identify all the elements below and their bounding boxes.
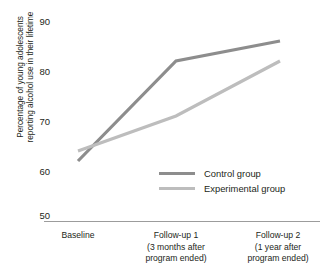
x-axis-category-labels: Baseline Follow-up 1 (3 months after pro… bbox=[0, 226, 323, 278]
y-axis-tick-labels: 90 80 70 60 50 bbox=[0, 0, 58, 240]
x-axis-label-followup-2-line-2: (1 year after bbox=[234, 242, 322, 254]
y-tick-label-50: 50 bbox=[39, 211, 50, 221]
x-axis-label-baseline: Baseline bbox=[36, 230, 120, 242]
y-tick-label-70: 70 bbox=[39, 117, 50, 127]
y-tick-label-90: 90 bbox=[39, 17, 50, 27]
line-chart: Percentage of young adolescents reportin… bbox=[0, 0, 323, 278]
legend-item-control: Control group bbox=[159, 166, 309, 181]
legend-label-control: Control group bbox=[204, 168, 261, 179]
y-tick-label-80: 80 bbox=[39, 67, 50, 77]
chart-legend: Control group Experimental group bbox=[159, 166, 309, 196]
series-line-control bbox=[78, 41, 280, 161]
series-line-experimental bbox=[78, 61, 280, 151]
legend-swatch-experimental bbox=[159, 187, 195, 191]
x-axis-label-followup-1-line-2: (3 months after bbox=[132, 242, 220, 254]
legend-swatch-control bbox=[159, 172, 195, 176]
legend-item-experimental: Experimental group bbox=[159, 181, 309, 196]
x-axis-line bbox=[44, 221, 320, 222]
x-axis-label-baseline-line-1: Baseline bbox=[36, 230, 120, 242]
x-axis-label-followup-1-line-3: program ended) bbox=[132, 253, 220, 265]
y-tick-label-60: 60 bbox=[39, 167, 50, 177]
x-axis-label-followup-2: Follow-up 2 (1 year after program ended) bbox=[234, 230, 322, 265]
x-axis-label-followup-1-line-1: Follow-up 1 bbox=[132, 230, 220, 242]
legend-label-experimental: Experimental group bbox=[204, 183, 285, 194]
x-axis-label-followup-2-line-1: Follow-up 2 bbox=[234, 230, 322, 242]
x-axis-label-followup-1: Follow-up 1 (3 months after program ende… bbox=[132, 230, 220, 265]
x-axis-label-followup-2-line-3: program ended) bbox=[234, 253, 322, 265]
